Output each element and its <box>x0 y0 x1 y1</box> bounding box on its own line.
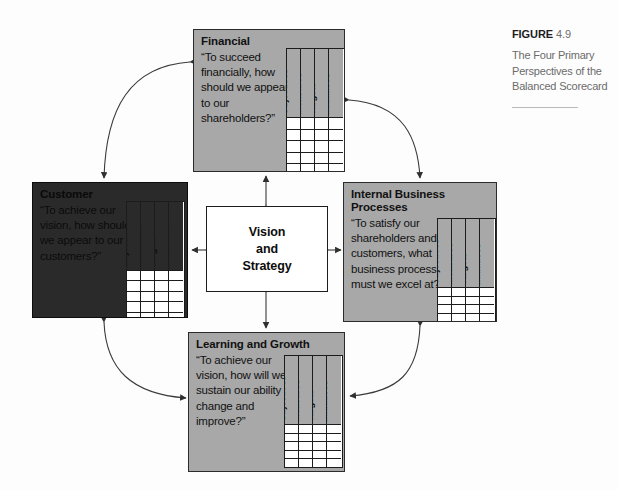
scorecard-grid-internal-business-processes[interactable]: Objectives Measures <box>437 218 496 322</box>
grid-column-initiatives[interactable]: Initiatives <box>327 356 341 467</box>
grid-cell[interactable] <box>285 425 298 434</box>
perspective-box-internal-business-processes[interactable]: Internal Business Processes “To satisfy … <box>343 182 497 322</box>
grid-cell[interactable] <box>315 141 328 153</box>
grid-cell[interactable] <box>301 130 314 142</box>
grid-cell[interactable] <box>480 314 494 322</box>
grid-cell[interactable] <box>127 271 140 281</box>
grid-cell[interactable] <box>438 305 451 314</box>
grid-column-targets[interactable]: Targets <box>313 356 327 467</box>
grid-cell[interactable] <box>169 271 183 281</box>
grid-cell[interactable] <box>301 153 314 165</box>
grid-cell[interactable] <box>438 297 451 306</box>
grid-cell[interactable] <box>287 164 300 172</box>
grid-cell[interactable] <box>301 118 314 130</box>
perspective-box-customer[interactable]: Customer “To achieve our vision, how sho… <box>32 182 188 318</box>
grid-cell[interactable] <box>287 130 300 142</box>
grid-cell[interactable] <box>313 442 326 451</box>
grid-cell[interactable] <box>327 459 341 467</box>
grid-column-targets[interactable]: Targets <box>155 202 169 318</box>
grid-cell[interactable] <box>299 459 312 467</box>
grid-column-objectives[interactable]: Objectives <box>285 356 299 467</box>
grid-cell[interactable] <box>327 442 341 451</box>
grid-cell[interactable] <box>287 153 300 165</box>
grid-cell[interactable] <box>313 425 326 434</box>
grid-cell[interactable] <box>327 425 341 434</box>
grid-cell[interactable] <box>466 288 479 297</box>
scorecard-grid-learning-and-growth[interactable]: Objectives Measures <box>284 355 343 468</box>
grid-cell[interactable] <box>452 305 465 314</box>
grid-cell[interactable] <box>315 118 328 130</box>
grid-cell[interactable] <box>169 292 183 302</box>
scorecard-grid-customer[interactable]: Objectives Measures <box>126 201 185 318</box>
grid-cell[interactable] <box>480 297 494 306</box>
grid-cell[interactable] <box>169 281 183 291</box>
vision-and-strategy-box[interactable]: Vision and Strategy <box>206 206 328 292</box>
grid-cell[interactable] <box>329 130 343 142</box>
grid-cell[interactable] <box>327 434 341 443</box>
grid-cell[interactable] <box>315 130 328 142</box>
grid-column-initiatives[interactable]: Initiatives <box>329 49 343 172</box>
grid-cell[interactable] <box>466 305 479 314</box>
grid-cell[interactable] <box>127 313 140 318</box>
grid-column-objectives[interactable]: Objectives <box>287 49 301 172</box>
grid-cell[interactable] <box>329 118 343 130</box>
grid-cell[interactable] <box>141 302 154 312</box>
grid-cell[interactable] <box>438 288 451 297</box>
grid-cell[interactable] <box>155 292 168 302</box>
grid-column-measures[interactable]: Measures <box>299 356 313 467</box>
grid-cell[interactable] <box>169 313 183 318</box>
grid-cell[interactable] <box>301 164 314 172</box>
grid-cell[interactable] <box>141 281 154 291</box>
grid-cell[interactable] <box>329 141 343 153</box>
grid-cell[interactable] <box>299 451 312 460</box>
grid-cell[interactable] <box>127 281 140 291</box>
grid-column-measures[interactable]: Measures <box>141 202 155 318</box>
grid-cell[interactable] <box>141 292 154 302</box>
grid-cell[interactable] <box>313 459 326 467</box>
grid-cell[interactable] <box>480 305 494 314</box>
grid-cell[interactable] <box>285 442 298 451</box>
grid-cell[interactable] <box>287 118 300 130</box>
grid-cell[interactable] <box>127 302 140 312</box>
grid-column-objectives[interactable]: Objectives <box>127 202 141 318</box>
grid-cell[interactable] <box>315 164 328 172</box>
grid-cell[interactable] <box>285 434 298 443</box>
grid-cell[interactable] <box>155 271 168 281</box>
grid-cell[interactable] <box>313 451 326 460</box>
perspective-box-learning-and-growth[interactable]: Learning and Growth “To achieve our visi… <box>188 332 345 472</box>
grid-cell[interactable] <box>438 314 451 322</box>
grid-column-measures[interactable]: Measures <box>301 49 315 172</box>
grid-cell[interactable] <box>285 451 298 460</box>
grid-cell[interactable] <box>299 425 312 434</box>
grid-cell[interactable] <box>329 164 343 172</box>
grid-cell[interactable] <box>329 153 343 165</box>
grid-column-measures[interactable]: Measures <box>452 219 466 322</box>
grid-cell[interactable] <box>155 281 168 291</box>
grid-cell[interactable] <box>285 459 298 467</box>
grid-cell[interactable] <box>155 302 168 312</box>
grid-cell[interactable] <box>452 288 465 297</box>
grid-cell[interactable] <box>141 271 154 281</box>
grid-cell[interactable] <box>466 297 479 306</box>
grid-cell[interactable] <box>141 313 154 318</box>
grid-column-targets[interactable]: Targets <box>466 219 480 322</box>
grid-cell[interactable] <box>169 302 183 312</box>
grid-cell[interactable] <box>155 313 168 318</box>
grid-cell[interactable] <box>466 314 479 322</box>
grid-cell[interactable] <box>480 288 494 297</box>
perspective-box-financial[interactable]: Financial “To succeed financially, how s… <box>193 29 345 172</box>
grid-cell[interactable] <box>327 451 341 460</box>
grid-cell[interactable] <box>313 434 326 443</box>
grid-cell[interactable] <box>452 314 465 322</box>
grid-cell[interactable] <box>299 434 312 443</box>
grid-cell[interactable] <box>287 141 300 153</box>
grid-cell[interactable] <box>452 297 465 306</box>
grid-cell[interactable] <box>315 153 328 165</box>
grid-column-objectives[interactable]: Objectives <box>438 219 452 322</box>
grid-cell[interactable] <box>127 292 140 302</box>
grid-column-targets[interactable]: Targets <box>315 49 329 172</box>
grid-cell[interactable] <box>301 141 314 153</box>
grid-column-initiatives[interactable]: Initiatives <box>480 219 494 322</box>
grid-column-initiatives[interactable]: Initiatives <box>169 202 183 318</box>
grid-cell[interactable] <box>299 442 312 451</box>
